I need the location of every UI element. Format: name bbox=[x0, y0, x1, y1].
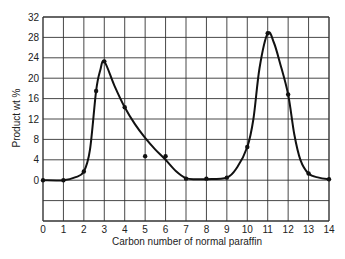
x-tick-label: 14 bbox=[323, 224, 335, 235]
y-tick-label: 32 bbox=[28, 12, 40, 23]
data-point bbox=[82, 169, 86, 173]
y-tick-label: 24 bbox=[28, 52, 40, 63]
y-tick-label: 16 bbox=[28, 93, 40, 104]
data-point bbox=[184, 176, 188, 180]
data-point bbox=[123, 105, 127, 109]
y-tick-label: 28 bbox=[28, 32, 40, 43]
grid bbox=[43, 17, 329, 221]
x-tick-labels: 01234567891011121314 bbox=[40, 224, 335, 235]
chart: 048121620242832 01234567891011121314 Pro… bbox=[0, 0, 345, 259]
x-tick-label: 5 bbox=[142, 224, 148, 235]
x-tick-label: 0 bbox=[40, 224, 46, 235]
x-tick-label: 1 bbox=[61, 224, 67, 235]
x-tick-label: 13 bbox=[303, 224, 315, 235]
data-point bbox=[306, 171, 310, 175]
data-point bbox=[327, 177, 331, 181]
y-axis-label: Product wt % bbox=[11, 88, 22, 147]
data-point bbox=[266, 31, 270, 35]
data-point bbox=[61, 178, 65, 182]
data-point bbox=[143, 154, 147, 158]
y-tick-label: 20 bbox=[28, 73, 40, 84]
data-point bbox=[245, 145, 249, 149]
x-tick-label: 9 bbox=[224, 224, 230, 235]
x-tick-label: 3 bbox=[102, 224, 108, 235]
y-tick-label: 8 bbox=[33, 134, 39, 145]
x-axis-label: Carbon number of normal paraffin bbox=[112, 236, 262, 247]
data-point bbox=[102, 59, 106, 63]
data-point bbox=[225, 175, 229, 179]
data-point bbox=[94, 89, 98, 93]
x-tick-label: 6 bbox=[163, 224, 169, 235]
x-tick-label: 12 bbox=[283, 224, 295, 235]
x-tick-label: 10 bbox=[242, 224, 254, 235]
x-tick-label: 2 bbox=[81, 224, 87, 235]
y-tick-label: 12 bbox=[28, 114, 40, 125]
x-tick-label: 4 bbox=[122, 224, 128, 235]
x-tick-label: 7 bbox=[183, 224, 189, 235]
y-tick-label: 0 bbox=[33, 175, 39, 186]
data-point bbox=[204, 176, 208, 180]
y-tick-label: 4 bbox=[33, 154, 39, 165]
y-tick-labels: 048121620242832 bbox=[28, 12, 40, 186]
x-tick-label: 8 bbox=[204, 224, 210, 235]
data-point bbox=[41, 178, 45, 182]
data-point bbox=[286, 92, 290, 96]
x-tick-label: 11 bbox=[263, 224, 274, 235]
data-point bbox=[163, 154, 167, 158]
